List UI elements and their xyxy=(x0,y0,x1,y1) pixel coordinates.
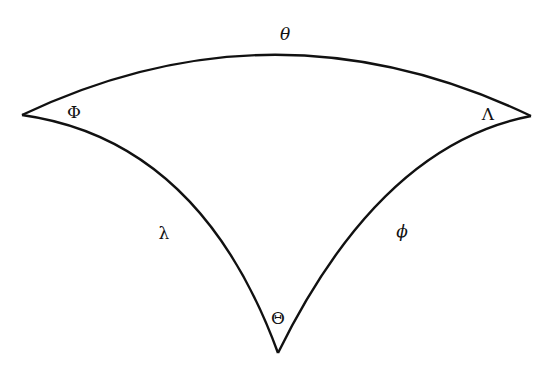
side-label-top: θ xyxy=(280,24,290,44)
angle-label-bottom: Θ xyxy=(271,308,285,328)
side-left-arc xyxy=(22,115,278,353)
angle-label-right: Λ xyxy=(481,104,495,124)
spherical-triangle-diagram: θ λ ϕ Φ Λ Θ xyxy=(0,0,549,375)
side-label-right: ϕ xyxy=(396,221,408,241)
angle-label-left: Φ xyxy=(67,102,81,122)
side-label-left: λ xyxy=(159,223,170,243)
side-top-arc xyxy=(22,55,531,116)
